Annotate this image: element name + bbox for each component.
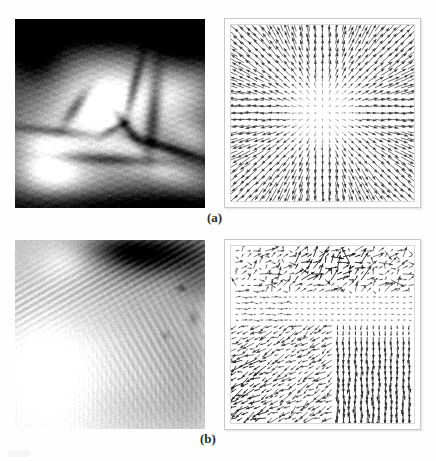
- textured-ridge-image: [15, 240, 205, 429]
- quiver-svg-b: [231, 246, 414, 423]
- plot-frame-a: [224, 18, 421, 208]
- plot-frame-b: [224, 239, 421, 430]
- plot-area-b: [230, 245, 415, 424]
- plot-area-a: [230, 24, 415, 202]
- irregular-motion-vector-field-plot: [224, 239, 421, 430]
- scan-artifact: [8, 450, 30, 457]
- figure-panel-a: (a): [0, 0, 436, 232]
- cardiac-mr-slice-image: [15, 19, 205, 208]
- figure-container: (a) (b): [0, 0, 436, 461]
- quiver-svg-a: [231, 25, 414, 201]
- radial-expansion-vector-field-plot: [224, 18, 421, 208]
- subfigure-caption-b: (b): [200, 431, 216, 447]
- subfigure-caption-a: (a): [207, 210, 222, 226]
